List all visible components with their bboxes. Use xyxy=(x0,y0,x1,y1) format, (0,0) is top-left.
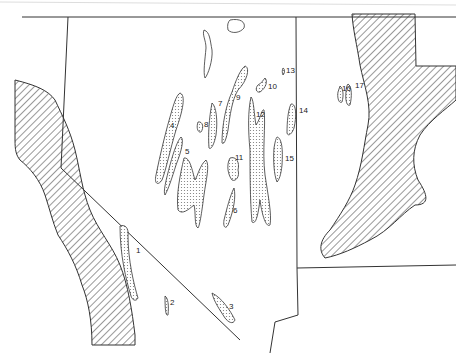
label-lake-7: 7 xyxy=(218,99,223,108)
label-lake-9: 9 xyxy=(236,93,241,102)
label-lake-2: 2 xyxy=(170,298,175,307)
page-edge xyxy=(0,2,456,5)
label-lake-16: 16 xyxy=(342,84,351,93)
label-lake-8: 8 xyxy=(204,120,209,129)
label-lake-4: 4 xyxy=(170,121,175,130)
lake-13 xyxy=(282,68,284,75)
label-lake-13: 13 xyxy=(286,66,295,75)
label-lake-1: 1 xyxy=(136,246,141,255)
label-lake-17: 17 xyxy=(355,81,364,90)
map-canvas: 1 2 3 4 5 6 7 8 9 10 11 12 13 14 15 16 1… xyxy=(0,0,456,353)
map-figure: 1 2 3 4 5 6 7 8 9 10 11 12 13 14 15 16 1… xyxy=(0,0,456,353)
lake-5 xyxy=(177,158,207,228)
label-lake-3: 3 xyxy=(229,302,234,311)
label-lake-10: 10 xyxy=(268,82,277,91)
label-lake-12: 12 xyxy=(256,110,265,119)
lake-14 xyxy=(287,104,296,135)
label-lake-6: 6 xyxy=(233,206,238,215)
lakes xyxy=(120,66,351,323)
label-lake-15: 15 xyxy=(285,154,294,163)
lake-9 xyxy=(222,66,248,143)
lake-15 xyxy=(274,137,283,182)
northern-basin-outline xyxy=(203,30,212,78)
lake-8 xyxy=(197,122,202,132)
label-lake-14: 14 xyxy=(299,106,308,115)
lake-7 xyxy=(209,103,217,148)
label-lake-5: 5 xyxy=(185,147,190,156)
label-lake-11: 11 xyxy=(235,153,244,162)
east-mountain-region xyxy=(321,14,456,258)
west-mountain-region xyxy=(15,80,135,345)
lake-2 xyxy=(165,296,168,315)
basin-outlines xyxy=(203,19,244,78)
northern-lake-outline xyxy=(228,19,245,32)
lake-10 xyxy=(256,78,266,92)
